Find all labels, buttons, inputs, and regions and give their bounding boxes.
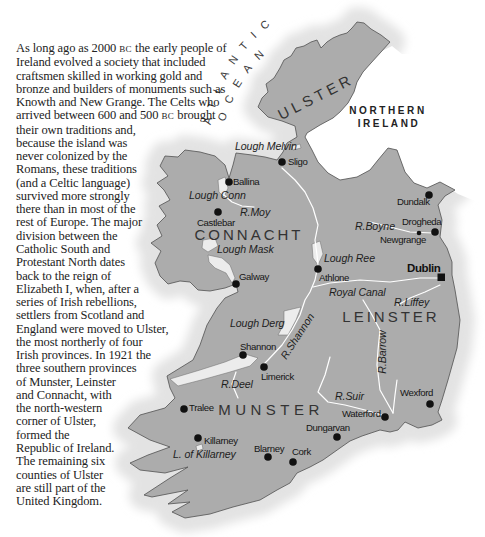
intro-line: As long ago as 2000 BC the early people … bbox=[16, 42, 227, 56]
intro-line: series of Irish rebellions, bbox=[16, 296, 227, 309]
city-marker-sligo bbox=[278, 158, 286, 166]
water-label-r-liffey: R.Liffey bbox=[394, 296, 429, 308]
water-label-lough-melvin: Lough Melvin bbox=[235, 140, 297, 152]
intro-line: Protestant North dates bbox=[16, 256, 227, 269]
intro-line: never colonized by the bbox=[16, 150, 227, 163]
intro-line: and Connacht, with bbox=[16, 389, 227, 402]
intro-line: settlers from Scotland and bbox=[16, 309, 227, 322]
intro-text: arrived between 600 and 500 bbox=[16, 108, 161, 122]
city-marker-wexford bbox=[426, 400, 434, 408]
water-label-r-boyne: R.Boyne bbox=[355, 220, 395, 232]
city-label-castlebar: Castlebar bbox=[197, 217, 235, 229]
intro-paragraph: As long ago as 2000 BC the early people … bbox=[16, 42, 227, 508]
city-label-sligo: Sligo bbox=[288, 156, 308, 168]
era-abbreviation: BC bbox=[161, 111, 174, 121]
intro-line: arrived between 600 and 500 BC brought bbox=[16, 109, 227, 123]
city-marker-cork bbox=[289, 458, 297, 466]
water-label-lakes-of-killarney: L. of Killarney bbox=[173, 448, 236, 460]
intro-line: Elizabeth I, when, after a bbox=[16, 283, 227, 296]
city-label-wexford: Wexford bbox=[400, 387, 433, 399]
northern-ireland-label-line1: NORTHERN bbox=[349, 105, 426, 117]
intro-line: corner of Ulster, bbox=[16, 415, 227, 428]
intro-line: counties of Ulster bbox=[16, 469, 227, 482]
water-label-lough-mask: Lough Mask bbox=[217, 243, 274, 255]
intro-line: Knowth and New Grange. The Celts who bbox=[16, 96, 227, 109]
intro-line: (and a Celtic language) bbox=[16, 177, 227, 190]
intro-line: bronze and builders of monuments such as bbox=[16, 83, 227, 96]
intro-line: formed the bbox=[16, 429, 227, 442]
intro-line: Romans, these traditions bbox=[16, 163, 227, 176]
intro-line: there than in most of the bbox=[16, 203, 227, 216]
city-label-blarney: Blarney bbox=[254, 443, 284, 455]
city-label-cork: Cork bbox=[292, 446, 311, 458]
city-label-limerick: Limerick bbox=[261, 371, 294, 383]
water-label-r-deel: R.Deel bbox=[221, 378, 253, 390]
city-label-ballina: Ballina bbox=[233, 176, 259, 188]
intro-line: Ireland evolved a society that included bbox=[16, 56, 227, 69]
city-label-shannon: Shannon bbox=[240, 341, 276, 353]
water-label-r-moy: R.Moy bbox=[240, 206, 270, 218]
city-label-killarney: Killarney bbox=[204, 435, 238, 447]
intro-line: England were moved to Ulster, bbox=[16, 323, 227, 336]
city-label-athlone: Athlone bbox=[319, 272, 349, 284]
intro-line: back to the reign of bbox=[16, 270, 227, 283]
city-label-galway: Galway bbox=[239, 271, 269, 283]
northern-ireland-label-line2: IRELAND bbox=[358, 118, 421, 130]
province-label-connacht: CONNACHT bbox=[195, 229, 304, 241]
intro-line: the most northerly of four bbox=[16, 336, 227, 349]
city-label-waterford: Waterford bbox=[342, 408, 381, 420]
intro-line: craftsmen skilled in working gold and bbox=[16, 70, 227, 83]
province-label-munster: MUNSTER bbox=[218, 404, 324, 416]
city-marker-limerick bbox=[260, 363, 268, 371]
city-label-dundalk: Dundalk bbox=[397, 196, 430, 208]
water-label-r-suir: R.Suir bbox=[335, 390, 364, 402]
intro-line: Catholic South and bbox=[16, 243, 227, 256]
water-label-lough-conn: Lough Conn bbox=[189, 189, 246, 201]
intro-line: their own traditions and, bbox=[16, 124, 227, 137]
water-label-lough-ree: Lough Ree bbox=[324, 252, 375, 264]
city-label-newgrange: Newgrange bbox=[380, 234, 426, 246]
city-marker-dungarvan bbox=[333, 433, 341, 441]
capital-marker-dublin bbox=[438, 274, 446, 282]
city-marker-drogheda bbox=[431, 228, 439, 236]
capital-label-dublin: Dublin bbox=[407, 262, 440, 274]
water-label-lough-derg: Lough Derg bbox=[230, 317, 284, 329]
era-abbreviation: BC bbox=[119, 44, 132, 54]
city-marker-waterford bbox=[381, 413, 389, 421]
intro-line: United Kingdom. bbox=[16, 495, 227, 508]
intro-line: Irish provinces. In 1921 the bbox=[16, 349, 227, 362]
city-label-dungarvan: Dungarvan bbox=[306, 422, 350, 434]
province-label-leinster: LEINSTER bbox=[342, 311, 439, 323]
page: ATLANTIC OCEAN As long bbox=[0, 0, 485, 537]
intro-line: of Munster, Leinster bbox=[16, 376, 227, 389]
city-label-drogheda: Drogheda bbox=[402, 216, 441, 228]
water-label-r-barrow: R.Barrow bbox=[376, 330, 388, 373]
intro-text: As long ago as 2000 bbox=[16, 41, 119, 55]
city-label-tralee: Tralee bbox=[189, 402, 214, 414]
water-label-royal-canal: Royal Canal bbox=[329, 286, 386, 298]
intro-line: three southern provinces bbox=[16, 362, 227, 375]
intro-line: because the island was bbox=[16, 137, 227, 150]
intro-text: the early people of bbox=[132, 41, 227, 55]
intro-line: are still part of the bbox=[16, 482, 227, 495]
intro-text: brought bbox=[174, 108, 215, 122]
